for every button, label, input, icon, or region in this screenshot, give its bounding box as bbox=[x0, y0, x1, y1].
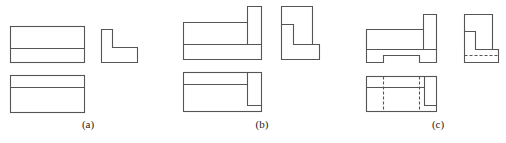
panel-a-drawing bbox=[11, 27, 138, 113]
panel-b-top-view bbox=[184, 73, 262, 112]
panel-c-top-view bbox=[367, 77, 437, 112]
three-view-drawings bbox=[0, 0, 506, 143]
panel-b-side-view bbox=[282, 7, 320, 60]
panel-c-label: (c) bbox=[432, 118, 444, 130]
panel-b-label: (b) bbox=[256, 118, 269, 130]
panel-a-top-view bbox=[11, 76, 85, 113]
panel-a-front-view bbox=[11, 27, 85, 63]
panel-a-label: (a) bbox=[82, 118, 94, 130]
panel-a-side-view bbox=[102, 30, 138, 63]
panel-c-drawing bbox=[367, 15, 499, 112]
panel-b-drawing bbox=[184, 7, 320, 112]
panel-c-side-view bbox=[465, 15, 499, 63]
panel-b-front-view bbox=[184, 7, 262, 60]
panel-c-front-view bbox=[367, 15, 437, 63]
